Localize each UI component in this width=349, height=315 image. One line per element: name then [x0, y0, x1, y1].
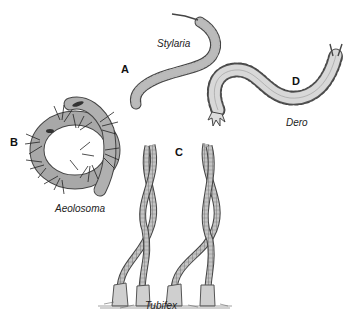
tubifex-worms — [98, 144, 232, 308]
stylaria-worm — [135, 14, 215, 104]
stylaria-proboscis — [172, 14, 198, 20]
annelid-figure: A Stylaria B Aeolosoma C Tubifex D Dero — [0, 0, 349, 315]
species-label-tubifex: Tubifex — [145, 300, 177, 311]
tubifex-worm-right-pair — [174, 144, 217, 290]
species-label-stylaria: Stylaria — [157, 38, 190, 49]
dero-gills — [208, 112, 225, 126]
panel-letter-b: B — [10, 136, 18, 148]
species-label-aeolosoma: Aeolosoma — [55, 203, 105, 214]
panel-letter-d: D — [292, 75, 300, 87]
panel-letter-a: A — [121, 63, 129, 75]
aeolosoma-worm — [25, 100, 119, 194]
panel-letter-c: C — [175, 146, 183, 158]
dero-worm — [208, 44, 342, 126]
tubifex-worm-left-pair — [120, 145, 154, 290]
species-label-dero: Dero — [286, 117, 308, 128]
